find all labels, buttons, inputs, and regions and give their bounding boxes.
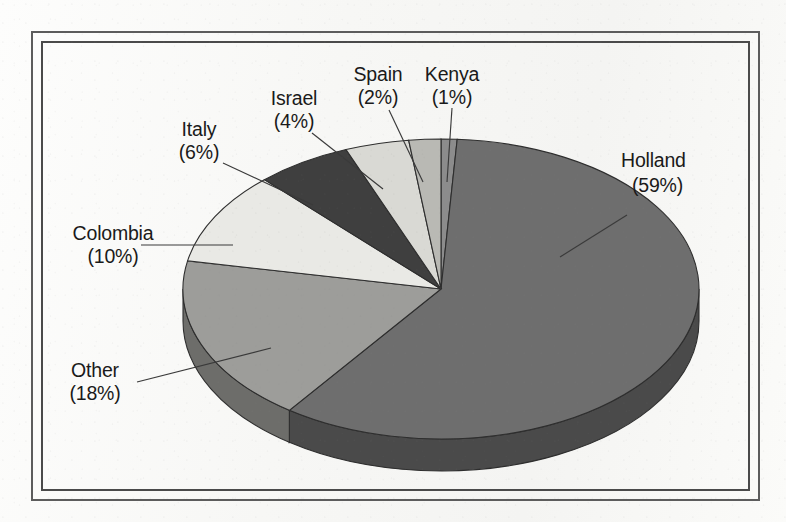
label-holland-name: Holland	[621, 149, 686, 171]
label-kenya-name: Kenya	[425, 63, 480, 85]
label-kenya-percent: (1%)	[432, 86, 472, 108]
pie-chart: Holland (59%) Kenya (1%) Spain (2%) Isra…	[0, 0, 786, 522]
figure-canvas: Holland (59%) Kenya (1%) Spain (2%) Isra…	[0, 0, 786, 522]
label-spain-name: Spain	[354, 63, 403, 85]
label-colombia-name: Colombia	[73, 222, 154, 244]
label-israel-percent: (4%)	[274, 110, 314, 132]
label-italy-name: Italy	[182, 118, 217, 140]
label-israel-name: Israel	[271, 87, 317, 109]
label-colombia-percent: (10%)	[87, 245, 138, 267]
label-spain-percent: (2%)	[358, 86, 398, 108]
label-italy-percent: (6%)	[179, 141, 219, 163]
pie-top-face	[183, 139, 699, 439]
label-other-percent: (18%)	[69, 382, 120, 404]
label-holland-percent: (59%)	[632, 174, 683, 196]
label-other-name: Other	[71, 359, 119, 381]
